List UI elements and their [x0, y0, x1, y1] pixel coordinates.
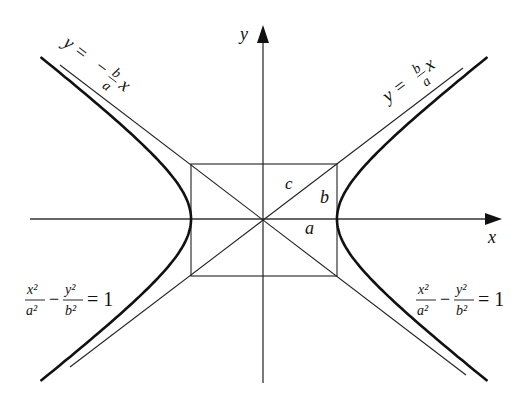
- label-b: b: [320, 187, 329, 207]
- svg-text:b²: b²: [456, 303, 468, 318]
- y-axis-arrow-icon: [257, 25, 269, 43]
- label-c: c: [285, 174, 293, 193]
- svg-text:x²: x²: [417, 282, 429, 297]
- hyperbola-diagram: x y c b a y = − b a x y = b a x x² a² − …: [0, 0, 532, 406]
- equation-right: x² a² − y² b² = 1: [416, 282, 504, 318]
- svg-text:a²: a²: [26, 303, 38, 318]
- svg-text:−: −: [440, 289, 450, 309]
- svg-text:x²: x²: [26, 282, 38, 297]
- svg-text:y²: y²: [454, 282, 467, 297]
- svg-text:a: a: [419, 73, 434, 89]
- svg-text:y²: y²: [63, 282, 76, 297]
- equation-left: x² a² − y² b² = 1: [25, 282, 113, 318]
- asymptote-negative-label: y = − b a x: [53, 29, 136, 103]
- svg-text:b²: b²: [65, 303, 77, 318]
- x-axis-label: x: [487, 227, 496, 247]
- y-axis-label: y: [238, 24, 248, 44]
- svg-text:y =: y =: [376, 74, 411, 108]
- asymptote-positive-label: y = b a x: [376, 52, 445, 115]
- svg-text:y =: y =: [58, 30, 93, 64]
- label-a: a: [305, 218, 314, 238]
- svg-text:a²: a²: [417, 303, 429, 318]
- x-axis-arrow-icon: [485, 213, 502, 225]
- asymptote-positive: [70, 68, 463, 367]
- svg-text:= 1: = 1: [87, 288, 113, 310]
- svg-text:−: −: [49, 289, 59, 309]
- svg-text:= 1: = 1: [478, 288, 504, 310]
- svg-text:a: a: [100, 78, 115, 94]
